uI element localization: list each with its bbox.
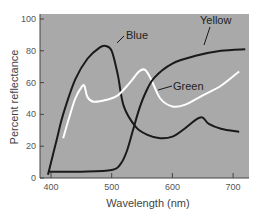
x-tick-label: 400 <box>43 182 58 192</box>
x-tick-label: 600 <box>165 182 180 192</box>
x-axis-title: Wavelength (nm) <box>106 197 189 209</box>
y-axis-title: Percent reflectance <box>8 50 20 145</box>
y-tick-label: 100 <box>21 14 36 24</box>
x-tick-label: 500 <box>104 182 119 192</box>
label-yellow: Yellow <box>200 14 231 26</box>
y-tick-label: 0 <box>31 173 36 183</box>
y-tick-label: 80 <box>26 46 36 56</box>
reflectance-chart: 020406080100 400500600700 BlueYellowGree… <box>0 0 261 218</box>
y-tick-label: 60 <box>26 78 36 88</box>
label-blue: Blue <box>126 29 148 41</box>
y-tick-label: 20 <box>26 141 36 151</box>
x-tick-label: 700 <box>226 182 241 192</box>
y-tick-label: 40 <box>26 109 36 119</box>
label-green: Green <box>173 80 204 92</box>
